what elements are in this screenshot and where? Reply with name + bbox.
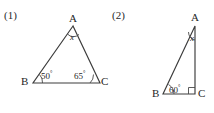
figure-1-triangle-drawing xyxy=(0,0,107,113)
angle-arc-at-c xyxy=(90,75,94,84)
angle-measure-value-b: 60 xyxy=(169,85,178,95)
unknown-angle-label-x: x xyxy=(70,33,74,42)
figure-1: (1) A B C x 50° 65° xyxy=(0,0,107,113)
vertex-label-b: B xyxy=(21,76,28,87)
degree-symbol-b: ° xyxy=(178,84,180,90)
degree-symbol-c: ° xyxy=(83,70,85,76)
unknown-angle-label-x: x xyxy=(190,34,194,43)
angle-measure-label-b: 60° xyxy=(169,84,180,95)
degree-symbol-b: ° xyxy=(50,70,52,76)
vertex-label-a: A xyxy=(69,13,77,24)
angle-measure-value-c: 65 xyxy=(74,71,83,81)
vertex-label-b: B xyxy=(152,88,159,99)
angle-measure-label-b: 50° xyxy=(41,70,52,81)
figure-2: (2) A B C x 60° xyxy=(107,0,214,113)
vertex-label-a: A xyxy=(191,12,199,23)
vertex-label-c: C xyxy=(198,88,205,99)
right-angle-marker-at-c xyxy=(189,88,196,95)
angle-measure-value-b: 50 xyxy=(41,71,50,81)
angle-measure-label-c: 65° xyxy=(74,70,85,81)
